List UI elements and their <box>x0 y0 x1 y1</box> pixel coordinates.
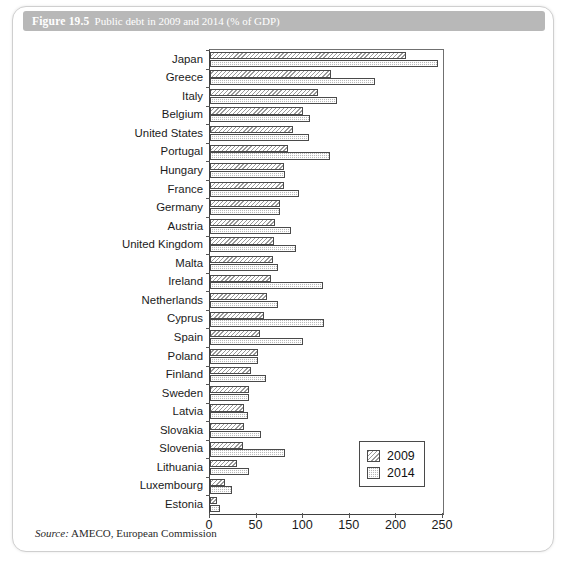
source-label: Source: <box>35 527 69 539</box>
category-label-hungary: Hungary <box>160 165 203 176</box>
bar-malta-2014 <box>210 264 278 271</box>
y-axis-tick <box>206 366 210 367</box>
category-label-cyprus: Cyprus <box>167 313 203 324</box>
category-label-italy: Italy <box>182 91 203 102</box>
category-label-luxembourg: Luxembourg <box>140 480 203 491</box>
bar-latvia-2014 <box>210 412 248 419</box>
bar-hungary-2014 <box>210 171 285 178</box>
y-axis-tick <box>206 236 210 237</box>
y-axis-tick <box>206 403 210 404</box>
y-axis-tick <box>206 458 210 459</box>
category-label-slovakia: Slovakia <box>160 425 203 436</box>
category-label-estonia: Estonia <box>165 499 203 510</box>
bar-sweden-2014 <box>210 394 249 401</box>
legend-item-2009: 2009 <box>367 447 415 464</box>
bar-finland-2014 <box>210 375 266 382</box>
y-axis-tick <box>206 495 210 496</box>
plot-wrapper: JapanGreeceItalyBelgiumUnited StatesPort… <box>13 33 553 525</box>
y-axis-tick <box>206 347 210 348</box>
y-axis-tick <box>206 124 210 125</box>
bar-netherlands-2014 <box>210 301 278 308</box>
category-label-malta: Malta <box>175 258 203 269</box>
bar-latvia-2009 <box>210 404 244 411</box>
bar-germany-2014 <box>210 208 280 215</box>
bar-slovakia-2014 <box>210 431 261 438</box>
category-label-spain: Spain <box>174 332 203 343</box>
y-axis-tick <box>206 87 210 88</box>
bar-united-states-2014 <box>210 134 309 141</box>
bar-poland-2014 <box>210 357 258 364</box>
x-axis-tick-label: 200 <box>385 518 406 532</box>
bar-slovakia-2009 <box>210 423 244 430</box>
bar-slovenia-2009 <box>210 442 243 449</box>
y-axis-tick <box>206 477 210 478</box>
x-axis-tick-label: 150 <box>338 518 359 532</box>
category-label-latvia: Latvia <box>173 406 203 417</box>
bar-estonia-2009 <box>210 497 217 504</box>
category-label-japan: Japan <box>172 54 203 65</box>
y-axis-tick <box>206 69 210 70</box>
bar-greece-2014 <box>210 78 375 85</box>
bar-cyprus-2009 <box>210 312 264 319</box>
bar-ireland-2009 <box>210 275 271 282</box>
source-text: AMECO, European Commission <box>71 527 217 539</box>
legend-label-2014: 2014 <box>387 466 415 480</box>
bar-spain-2009 <box>210 330 260 337</box>
bar-malta-2009 <box>210 256 273 263</box>
y-axis-tick <box>206 310 210 311</box>
bar-greece-2009 <box>210 70 331 77</box>
figure-title-bar: Figure 19.5 Public debt in 2009 and 2014… <box>23 11 545 31</box>
x-axis-tick-label: 250 <box>431 518 452 532</box>
y-axis-tick <box>206 273 210 274</box>
category-label-austria: Austria <box>168 221 203 232</box>
bar-united-states-2009 <box>210 126 293 133</box>
bar-cyprus-2014 <box>210 319 324 326</box>
bar-ireland-2014 <box>210 282 323 289</box>
category-label-slovenia: Slovenia <box>159 443 203 454</box>
chart-plot-area: JapanGreeceItalyBelgiumUnited StatesPort… <box>209 49 444 515</box>
x-axis-tick-label: 100 <box>292 518 313 532</box>
category-label-netherlands: Netherlands <box>142 295 203 306</box>
category-label-sweden: Sweden <box>162 388 203 399</box>
bar-portugal-2009 <box>210 145 288 152</box>
y-axis-tick <box>206 328 210 329</box>
legend-label-2009: 2009 <box>387 449 415 463</box>
bar-hungary-2009 <box>210 163 284 170</box>
legend-item-2014: 2014 <box>367 464 415 481</box>
category-label-united-kingdom: United Kingdom <box>122 239 203 250</box>
category-label-belgium: Belgium <box>162 109 203 120</box>
figure-card: Figure 19.5 Public debt in 2009 and 2014… <box>12 6 554 552</box>
bar-poland-2009 <box>210 349 258 356</box>
bar-finland-2009 <box>210 367 251 374</box>
bar-belgium-2014 <box>210 115 310 122</box>
category-label-lithuania: Lithuania <box>157 462 203 473</box>
bar-germany-2009 <box>210 200 280 207</box>
y-axis-tick <box>206 143 210 144</box>
y-axis-tick <box>206 384 210 385</box>
y-axis-tick <box>206 440 210 441</box>
bar-slovenia-2014 <box>210 449 285 456</box>
bar-belgium-2009 <box>210 107 303 114</box>
bar-japan-2014 <box>210 60 438 67</box>
bar-spain-2014 <box>210 338 303 345</box>
y-axis-tick <box>206 50 210 51</box>
bar-austria-2014 <box>210 227 291 234</box>
chart-legend: 20092014 <box>359 441 425 487</box>
y-axis-tick <box>206 198 210 199</box>
bar-lithuania-2014 <box>210 468 249 475</box>
bar-luxembourg-2009 <box>210 479 225 486</box>
bar-france-2014 <box>210 190 299 197</box>
category-label-france: France <box>168 184 203 195</box>
bar-italy-2009 <box>210 89 318 96</box>
x-axis-tick-label: 50 <box>249 518 263 532</box>
bar-lithuania-2009 <box>210 460 237 467</box>
bar-italy-2014 <box>210 97 337 104</box>
source-note: Source: AMECO, European Commission <box>35 527 217 539</box>
bar-luxembourg-2014 <box>210 486 232 493</box>
category-label-united-states: United States <box>135 128 203 139</box>
bar-japan-2009 <box>210 52 406 59</box>
bar-austria-2009 <box>210 219 275 226</box>
category-label-germany: Germany <box>156 202 203 213</box>
bar-sweden-2009 <box>210 386 249 393</box>
bar-netherlands-2009 <box>210 293 267 300</box>
